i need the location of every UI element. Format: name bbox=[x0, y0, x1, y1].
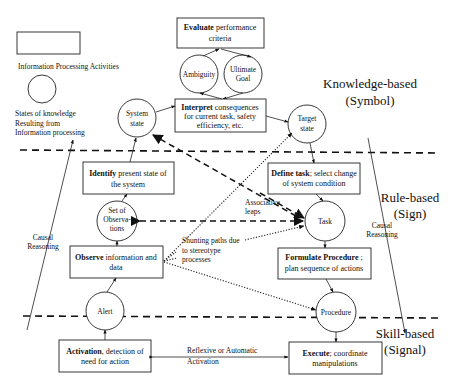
ambiguity-to-evaluate-arrow bbox=[203, 49, 219, 56]
alert-label: Alert bbox=[97, 307, 113, 316]
shunting-label-2: to stereotype bbox=[182, 246, 221, 255]
system-state-label-1: System bbox=[126, 109, 148, 118]
target-state-label-2: state bbox=[300, 124, 314, 133]
level-rule-sub: (Sign) bbox=[394, 206, 427, 221]
observations-label-3: tions bbox=[110, 224, 125, 233]
system-state-label-2: state bbox=[130, 119, 144, 128]
observations-label-1: Set of bbox=[108, 206, 126, 215]
activation-text-1: Activation, detection of bbox=[66, 347, 144, 356]
observe-text-1: Observe information and bbox=[75, 253, 157, 262]
level-skill-sub: (Signal) bbox=[384, 342, 426, 357]
interpret-text-1: Interpret consequences bbox=[181, 103, 258, 112]
causal-left-1: Causal bbox=[33, 233, 53, 242]
legend-state-circle bbox=[28, 75, 56, 103]
knowledge-rule-divider bbox=[20, 150, 440, 153]
execute-text-1: Execute; coordinate bbox=[302, 349, 368, 358]
evaluate-text-2: criteria bbox=[209, 34, 232, 43]
goal-to-interpret-arrow bbox=[223, 93, 243, 99]
task-label: Task bbox=[318, 217, 332, 226]
execute-text-2: manipulations bbox=[312, 359, 357, 368]
level-rule-label: Rule-based bbox=[381, 190, 440, 205]
associative-label-2: leaps bbox=[245, 207, 260, 216]
activity-execute bbox=[289, 342, 382, 374]
identify-text-1: Identify present state of bbox=[89, 169, 167, 178]
shunting-to-task-arrow bbox=[245, 226, 304, 240]
activation-text-2: need for action bbox=[81, 357, 129, 366]
interpret-to-target-arrow bbox=[266, 116, 288, 122]
shunting-label-3: processes bbox=[182, 255, 211, 264]
formulate-text-1: Formulate Procedure ; bbox=[285, 253, 362, 262]
activity-identify bbox=[83, 162, 174, 194]
target-state-label-1: Target bbox=[298, 114, 318, 123]
target-to-define-arrow bbox=[310, 143, 314, 163]
activity-observe bbox=[70, 246, 163, 278]
skill-rule-knowledge-diagram: Information Processing Activities States… bbox=[0, 0, 455, 389]
system-to-interpret-arrow bbox=[156, 106, 175, 112]
observations-to-identify-arrow bbox=[122, 194, 127, 201]
define-text-1: Define task; select change bbox=[271, 169, 357, 178]
level-skill-label: Skill-based bbox=[376, 326, 435, 341]
level-knowledge-label: Knowledge-based bbox=[323, 76, 417, 91]
reflexive-label-1: Reflexive or Automatic bbox=[187, 346, 258, 355]
define-text-2: of system condition bbox=[282, 179, 345, 188]
evaluate-text-1: Evaluate performance bbox=[184, 23, 257, 32]
procedure-label: Procedure bbox=[321, 308, 352, 317]
define-to-task-arrow bbox=[316, 194, 323, 201]
reflexive-label-2: Activation bbox=[187, 357, 219, 366]
associative-label-1: Associative bbox=[245, 198, 281, 207]
state-system-state bbox=[118, 99, 156, 137]
interpret-text-2: for current task, safety bbox=[184, 112, 256, 121]
rule-skill-divider bbox=[23, 316, 440, 318]
legend-state-label-2: Resulting from bbox=[15, 119, 60, 128]
interpret-to-ambiguity-arrow bbox=[200, 93, 222, 99]
interpret-text-3: efficiency, etc. bbox=[197, 121, 244, 130]
alert-to-observe-arrow bbox=[107, 278, 116, 292]
formulate-text-2: plan sequence of actions bbox=[285, 264, 363, 273]
legend-activity-box bbox=[17, 32, 80, 54]
observe-text-2: data bbox=[109, 263, 123, 272]
observations-label-2: Observa- bbox=[103, 215, 131, 224]
causal-right-2: Reasoning bbox=[366, 230, 398, 239]
causal-right-1: Causal bbox=[372, 221, 392, 230]
causal-left-2: Reasoning bbox=[27, 242, 59, 251]
legend-state-label-1: States of knowledge bbox=[15, 109, 76, 118]
level-knowledge-sub: (Symbol) bbox=[345, 93, 394, 108]
evaluate-to-goal-arrow bbox=[221, 49, 251, 57]
ultimate-goal-label-1: Ultimate bbox=[230, 65, 257, 74]
shunting-label-1: Shunting paths due bbox=[182, 236, 240, 245]
legend-activity-label: Information Processing Activities bbox=[18, 62, 119, 71]
ambiguity-label: Ambiguity bbox=[183, 70, 216, 79]
identify-text-2: the system bbox=[111, 180, 146, 189]
ultimate-goal-label-2: Goal bbox=[236, 74, 251, 83]
formulate-to-procedure-arrow bbox=[326, 279, 333, 292]
activity-activation bbox=[59, 340, 151, 372]
legend-state-label-3: Information processing bbox=[15, 128, 85, 137]
